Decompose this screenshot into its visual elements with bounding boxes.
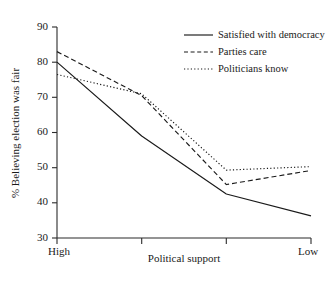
y-tick-label-30: 30 [37, 231, 49, 243]
y-tick-label-80: 80 [37, 55, 49, 67]
chart-container: % Believing election was fair 90 80 70 6… [0, 0, 334, 282]
legend: Satisfied with democracy Parties care Po… [184, 29, 325, 74]
y-axis-title: % Believing election was fair [9, 68, 21, 198]
legend-label-politicians-know: Politicians know [218, 63, 289, 74]
legend-label-parties-care: Parties care [218, 46, 267, 57]
line-chart: % Believing election was fair 90 80 70 6… [0, 0, 334, 282]
y-tick-label-40: 40 [37, 195, 49, 207]
series-line-satisfied-with-democracy [57, 62, 311, 216]
x-axis-title: Political support [148, 252, 220, 264]
y-tick-label-70: 70 [37, 90, 49, 102]
y-tick-label-60: 60 [37, 125, 49, 137]
x-tick-label-high: High [48, 245, 71, 257]
legend-label-satisfied-with-democracy: Satisfied with democracy [218, 29, 325, 40]
y-axis-ticks: 90 80 70 60 50 40 30 [37, 20, 57, 243]
y-tick-label-50: 50 [37, 160, 49, 172]
y-tick-label-90: 90 [37, 20, 49, 32]
series-group [57, 52, 311, 216]
series-line-politicians-know [57, 74, 311, 170]
x-tick-label-low: Low [298, 245, 318, 257]
